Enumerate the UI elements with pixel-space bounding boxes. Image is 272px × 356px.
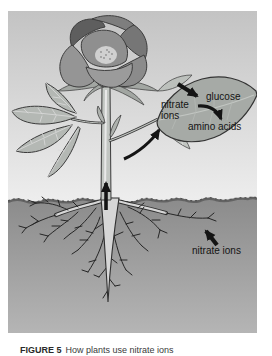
figure-caption-text: How plants use nitrate ions bbox=[66, 345, 174, 355]
plant-nitrate-diagram: glucose nitrate ions amino acids nitrate… bbox=[8, 11, 257, 333]
soil-ground bbox=[8, 197, 257, 333]
plant-diagram-canvas bbox=[8, 11, 257, 333]
nitrate-ions-soil-label: nitrate ions bbox=[192, 245, 241, 256]
amino-acids-label: amino acids bbox=[188, 121, 241, 132]
glucose-label: glucose bbox=[206, 91, 240, 102]
figure-caption: FIGURE 5How plants use nitrate ions bbox=[20, 345, 260, 356]
figure-caption-number: FIGURE 5 bbox=[20, 345, 62, 355]
nitrate-ions-leaf-label: nitrate ions bbox=[161, 99, 201, 121]
flower-center bbox=[95, 46, 117, 64]
